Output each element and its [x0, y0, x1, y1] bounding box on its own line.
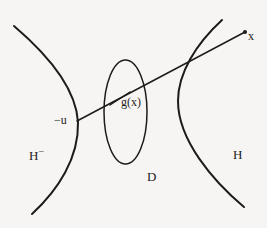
label-h-minus-region: H− [29, 147, 44, 162]
disk-ellipse [104, 60, 147, 164]
label-g-of-x: g(x) [121, 96, 141, 108]
right-hyperbola-branch [178, 20, 244, 207]
label-h-minus-letter: H [29, 148, 38, 163]
x-endpoint-dot [243, 30, 247, 34]
left-hyperbola-branch [14, 26, 78, 214]
label-point-x: x [248, 30, 254, 42]
label-point-minus-u: −u [54, 114, 67, 126]
figure-canvas: H− H D g(x) x −u [0, 0, 267, 228]
label-h-region: H [233, 148, 242, 161]
label-h-minus-superscript: − [38, 146, 44, 157]
diagram-svg [0, 0, 267, 228]
geodesic-line [77, 32, 245, 121]
label-d-region: D [147, 170, 156, 183]
